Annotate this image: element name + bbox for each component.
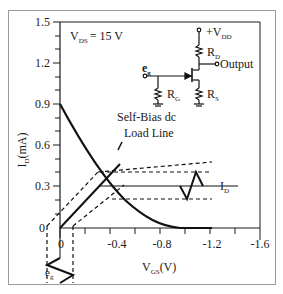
svg-text:0: 0 [39,221,45,235]
svg-text:0.9: 0.9 [35,97,50,111]
svg-text:RG: RG [167,87,180,103]
y-axis-label: ID(mA) [15,132,31,167]
svg-text:0.6: 0.6 [35,138,50,152]
y-axis-ticks [53,22,60,214]
svg-text:eg: eg [142,61,151,77]
id-swing-label: ID [220,179,229,195]
x-tick-labels: 0 -0.4 -0.8 -1.2 -1.6 [58,237,270,251]
svg-text:VGS(V): VGS(V) [142,260,176,276]
x-axis-label: VGS(V) [142,260,176,276]
svg-text:0.3: 0.3 [35,179,50,193]
load-line-label: Self-Bias dc Load Line [117,110,176,150]
y-tick-labels: 1.5 1.2 0.9 0.6 0.3 0 [35,15,50,235]
svg-text:-0.8: -0.8 [153,237,172,251]
svg-text:RD: RD [207,45,220,61]
svg-text:-0.4: -0.4 [108,237,127,251]
svg-text:1.5: 1.5 [35,15,50,29]
self-bias-load-line [60,164,120,228]
load-line-shift-left [47,172,98,226]
svg-text:Output: Output [220,57,254,71]
svg-text:1.2: 1.2 [35,56,50,70]
svg-text:ID(mA): ID(mA) [15,132,31,167]
svg-text:VDS= 15 V: VDS= 15 V [70,29,123,45]
svg-text:Self-Bias dc: Self-Bias dc [117,110,176,124]
diagram-canvas: 1.5 1.2 0.9 0.6 0.3 0 0 -0.4 -0.8 -1.2 -… [0,0,283,294]
svg-text:RS: RS [207,87,219,103]
eg-signal-label: eg [45,266,54,281]
svg-text:0: 0 [58,237,64,251]
vds-condition-label: VDS= 15 V [70,29,123,45]
svg-text:-1.2: -1.2 [203,237,222,251]
svg-text:-1.6: -1.6 [251,237,270,251]
svg-text:+VDD: +VDD [206,25,232,41]
svg-text:Load Line: Load Line [124,126,174,140]
